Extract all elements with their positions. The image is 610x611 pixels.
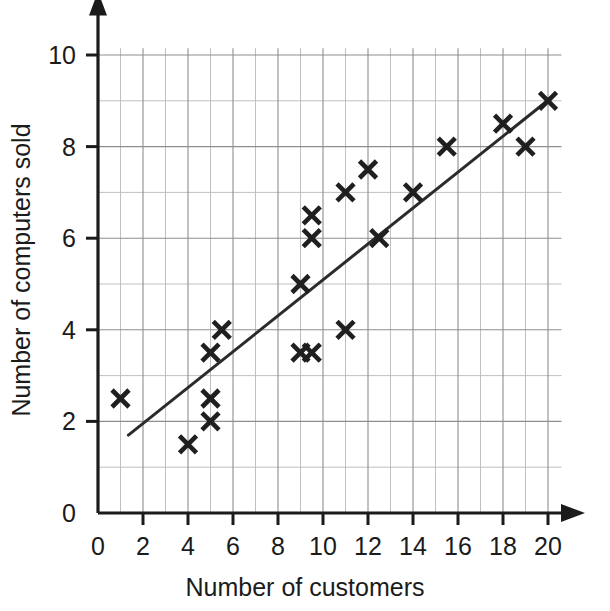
x-tick-label: 14 <box>399 532 427 560</box>
x-axis-tick-labels: 02468101214161820 <box>91 532 562 560</box>
minor-gridlines <box>98 48 562 513</box>
x-tick-label: 2 <box>136 532 150 560</box>
x-axis-ticks <box>143 513 548 525</box>
y-tick-label: 0 <box>62 499 76 527</box>
x-tick-label: 0 <box>91 532 105 560</box>
plot-area: 02468101214161820 0246810 Number of cust… <box>0 0 610 611</box>
x-tick-label: 12 <box>354 532 382 560</box>
y-axis-arrowhead <box>89 0 107 16</box>
line-of-best-fit <box>128 99 550 436</box>
y-tick-label: 6 <box>62 224 76 252</box>
y-axis-tick-labels: 0246810 <box>48 41 76 527</box>
x-tick-label: 18 <box>489 532 517 560</box>
scatter-chart: 02468101214161820 0246810 Number of cust… <box>0 0 610 611</box>
x-tick-label: 16 <box>444 532 472 560</box>
y-tick-label: 10 <box>48 41 76 69</box>
x-axis-arrowhead <box>561 504 585 522</box>
x-tick-label: 4 <box>181 532 195 560</box>
axes <box>89 0 585 522</box>
y-axis-ticks <box>86 55 98 421</box>
x-tick-label: 10 <box>309 532 337 560</box>
y-tick-label: 4 <box>62 316 76 344</box>
x-tick-label: 8 <box>271 532 285 560</box>
x-tick-label: 20 <box>534 532 562 560</box>
data-point-marker <box>303 207 320 224</box>
y-tick-label: 2 <box>62 407 76 435</box>
major-gridlines <box>98 48 562 513</box>
data-point-marker <box>303 344 320 361</box>
x-axis-title: Number of customers <box>186 573 425 601</box>
y-axis-title: Number of computers sold <box>7 123 35 416</box>
y-tick-label: 8 <box>62 133 76 161</box>
x-tick-label: 6 <box>226 532 240 560</box>
